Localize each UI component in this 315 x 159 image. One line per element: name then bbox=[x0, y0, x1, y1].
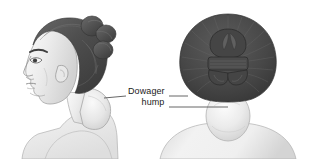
bun-center-band bbox=[208, 57, 248, 70]
posterior-hair-bun bbox=[208, 29, 248, 85]
dowager-hump-label-line2: hump bbox=[127, 97, 185, 108]
illustration-canvas bbox=[0, 0, 315, 159]
lateral-ear bbox=[56, 65, 68, 82]
bun-lobe-right bbox=[96, 25, 116, 43]
dowager-hump-label: Dowager hump bbox=[127, 86, 185, 108]
leader-line-left bbox=[104, 96, 126, 98]
dowager-hump-figure: Dowager hump bbox=[0, 0, 315, 159]
dowager-hump-label-line1: Dowager bbox=[127, 86, 185, 97]
lateral-dowager-hump bbox=[80, 88, 111, 129]
lateral-iris bbox=[33, 58, 37, 62]
lateral-view-figure bbox=[22, 16, 118, 159]
